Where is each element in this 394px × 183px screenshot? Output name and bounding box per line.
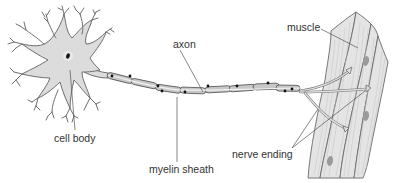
axon-leader <box>180 50 203 92</box>
cell-body <box>8 6 114 122</box>
myelin-segment <box>229 84 255 92</box>
label-axon: axon <box>173 38 196 50</box>
label-nerve-ending: nerve ending <box>232 148 293 160</box>
cell-body-shape <box>22 14 106 108</box>
label-myelin-sheath: myelin sheath <box>149 163 214 175</box>
label-cell-body: cell body <box>54 132 96 144</box>
label-muscle: muscle <box>287 21 320 33</box>
myelin-sheath <box>84 66 300 94</box>
muscle <box>308 12 388 178</box>
neuron-diagram: cell body axon myelin sheath nerve endin… <box>0 0 394 183</box>
